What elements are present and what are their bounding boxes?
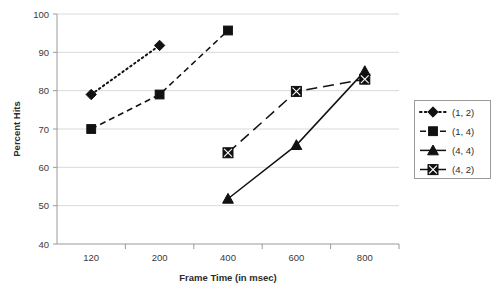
legend-label: (1, 2) [452,107,474,118]
x-tick-label: 120 [83,252,99,263]
x-tick-label: 800 [357,252,373,263]
gridlines-group [57,14,399,206]
data-point-square [224,26,233,35]
y-tick-label: 60 [38,162,49,173]
legend: (1, 2)(1, 4)(4, 4)(4, 2) [415,101,491,179]
y-tick-label: 40 [38,239,49,250]
y-tick-label: 100 [33,9,49,20]
data-point-square-x [223,148,233,158]
x-tick-label: 200 [152,252,168,263]
data-point-square [429,127,438,136]
y-tick-label: 80 [38,85,49,96]
y-tick-label: 50 [38,200,49,211]
data-point-square-x [291,86,301,96]
y-axis-ticks: 405060708090100 [33,9,57,250]
data-point-square-x [360,74,370,84]
chart-figure: 405060708090100 120200400600800 Percent … [0,0,496,290]
x-tick-label: 400 [220,252,236,263]
x-tick-label: 600 [288,252,304,263]
legend-label: (1, 4) [452,126,474,137]
y-tick-label: 90 [38,47,49,58]
y-axis-title: Percent Hits [11,101,22,156]
legend-label: (4, 2) [452,164,474,175]
data-point-square [155,90,164,99]
y-tick-label: 70 [38,124,49,135]
data-point-diamond [154,40,164,50]
x-axis-ticks: 120200400600800 [83,244,399,263]
chart-canvas: 405060708090100 120200400600800 Percent … [0,0,496,290]
data-point-square [87,125,96,134]
x-axis-title: Frame Time (in msec) [179,272,277,283]
legend-label: (4, 4) [452,145,474,156]
data-point-square-x [428,165,438,175]
data-point-triangle [223,193,234,203]
